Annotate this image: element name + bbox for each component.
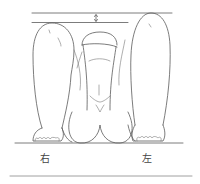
knee-height-diagram: 右 左 (0, 0, 200, 184)
right-leg (33, 23, 74, 141)
height-difference-arrow-icon (95, 15, 98, 22)
left-side-label: 左 (142, 154, 152, 164)
left-leg (131, 13, 170, 141)
torso (62, 32, 135, 143)
leg-drawing (0, 0, 200, 184)
right-side-label: 右 (40, 154, 50, 164)
